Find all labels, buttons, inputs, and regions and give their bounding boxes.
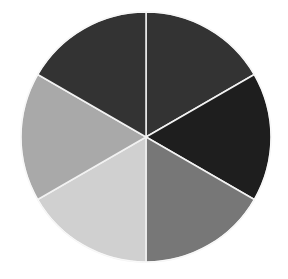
pie-chart [0,0,288,279]
